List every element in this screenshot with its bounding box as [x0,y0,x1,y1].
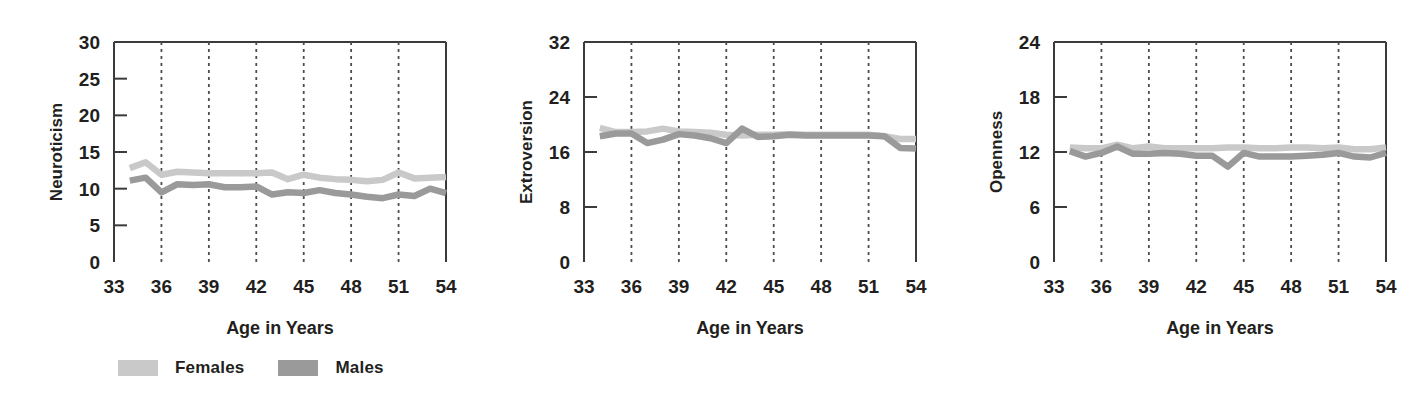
x-axis: 3336394245485154 [1043,276,1397,297]
plot-frame [114,42,446,262]
y-tick-label: 12 [1019,142,1040,163]
x-axis-title: Age in Years [696,318,804,338]
x-tick-label: 42 [716,276,737,297]
vertical-gridlines [631,42,868,262]
x-axis: 3336394245485154 [103,276,457,297]
chart-legend: Females Males [118,358,384,378]
y-tick-label: 0 [559,252,570,273]
y-tick-label: 16 [549,142,570,163]
x-tick-label: 33 [573,276,594,297]
x-tick-label: 36 [1091,276,1112,297]
panel-neuroticism: 0510152025303336394245485154Age in Years… [0,0,470,340]
y-tick-label: 6 [1029,197,1040,218]
y-axis-title: Openness [987,111,1006,193]
y-axis-title: Extroversion [517,100,536,204]
y-tick-label: 0 [1029,252,1040,273]
y-axis: 08162432 [549,32,597,273]
y-tick-label: 5 [89,215,100,236]
x-tick-label: 48 [1281,276,1302,297]
y-tick-label: 10 [79,179,100,200]
x-tick-label: 48 [811,276,832,297]
x-tick-label: 54 [905,276,927,297]
legend-swatch-males [278,360,318,376]
y-tick-label: 20 [79,105,100,126]
vertical-gridlines [161,42,398,262]
x-tick-label: 54 [435,276,457,297]
x-tick-label: 36 [151,276,172,297]
y-tick-label: 32 [549,32,570,53]
panel-openness: 061218243336394245485154Age in YearsOpen… [940,0,1410,340]
x-tick-label: 45 [293,276,315,297]
x-tick-label: 51 [388,276,410,297]
x-axis-title: Age in Years [226,318,334,338]
y-tick-label: 0 [89,252,100,273]
y-tick-label: 24 [1019,32,1041,53]
x-tick-label: 39 [1138,276,1159,297]
plot-frame [584,42,916,262]
x-tick-label: 42 [246,276,267,297]
x-axis-title: Age in Years [1166,318,1274,338]
y-tick-label: 30 [79,32,100,53]
y-tick-label: 18 [1019,87,1040,108]
chart-panels-row: 0510152025303336394245485154Age in Years… [0,0,1410,340]
y-tick-label: 25 [79,69,101,90]
x-tick-label: 45 [763,276,785,297]
x-tick-label: 42 [1186,276,1207,297]
x-tick-label: 36 [621,276,642,297]
panel-extroversion: 081624323336394245485154Age in YearsExtr… [470,0,940,340]
x-tick-label: 51 [1328,276,1350,297]
legend-entry-males: Males [278,358,383,378]
legend-swatch-females [118,360,158,376]
x-tick-label: 39 [198,276,219,297]
legend-entry-females: Females [118,358,244,378]
y-tick-label: 15 [79,142,101,163]
x-axis: 3336394245485154 [573,276,927,297]
y-axis-title: Neuroticism [47,103,66,201]
y-axis: 051015202530 [79,32,127,273]
series-line-females [130,162,446,181]
legend-label-males: Males [335,358,383,378]
legend-label-females: Females [175,358,244,378]
x-tick-label: 45 [1233,276,1255,297]
y-tick-label: 8 [559,197,570,218]
y-axis: 06121824 [1019,32,1067,273]
three-panel-personality-line-charts: 0510152025303336394245485154Age in Years… [0,0,1410,417]
x-tick-label: 54 [1375,276,1397,297]
x-tick-label: 39 [668,276,689,297]
y-tick-label: 24 [549,87,571,108]
x-tick-label: 48 [341,276,362,297]
x-tick-label: 33 [103,276,124,297]
x-tick-label: 51 [858,276,880,297]
x-tick-label: 33 [1043,276,1064,297]
